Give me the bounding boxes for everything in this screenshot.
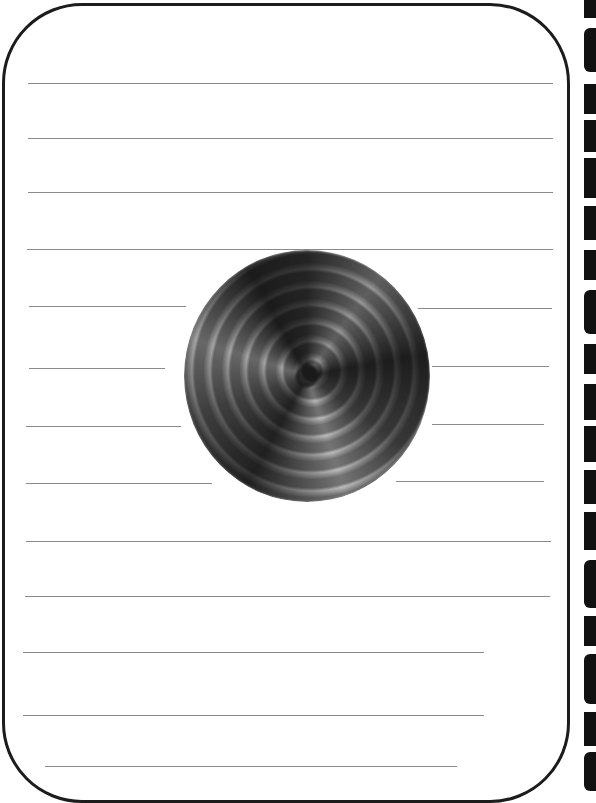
ruled-line: [29, 306, 186, 307]
ruled-line: [26, 426, 181, 427]
decorative-edge-strip: [584, 0, 596, 791]
ruled-line: [26, 483, 212, 484]
ruled-line: [26, 541, 551, 542]
ruled-line: [23, 652, 484, 653]
ruled-line: [29, 368, 165, 369]
ruled-line: [45, 766, 457, 767]
spiral-texture: [184, 250, 430, 502]
ruled-line: [28, 83, 553, 84]
edge-mark: [584, 250, 596, 280]
edge-mark: [584, 28, 596, 72]
edge-mark: [584, 616, 596, 646]
edge-mark: [584, 158, 596, 198]
edge-mark: [584, 120, 596, 152]
ruled-line: [28, 138, 553, 139]
ruled-line: [396, 481, 544, 482]
edge-mark: [584, 84, 596, 114]
edge-mark: [584, 344, 596, 374]
edge-mark: [584, 206, 596, 240]
edge-mark: [584, 0, 596, 18]
edge-mark: [584, 470, 596, 504]
edge-mark: [584, 512, 596, 550]
ruled-line: [25, 596, 550, 597]
edge-mark: [584, 560, 596, 608]
edge-mark: [584, 384, 596, 420]
ruled-line: [28, 192, 553, 193]
edge-mark: [584, 752, 596, 791]
edge-mark: [584, 426, 596, 462]
ruled-line: [418, 308, 552, 309]
edge-mark: [584, 712, 596, 746]
edge-mark: [584, 654, 596, 704]
ruled-line: [432, 424, 544, 425]
ruled-line: [23, 715, 484, 716]
ruled-line: [432, 366, 549, 367]
ruled-line: [27, 249, 553, 250]
edge-mark: [584, 290, 596, 334]
